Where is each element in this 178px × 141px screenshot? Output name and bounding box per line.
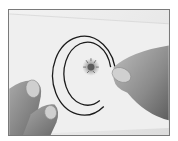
slide-photo	[9, 10, 169, 135]
specimen	[82, 58, 100, 76]
photo-frame	[8, 9, 170, 136]
